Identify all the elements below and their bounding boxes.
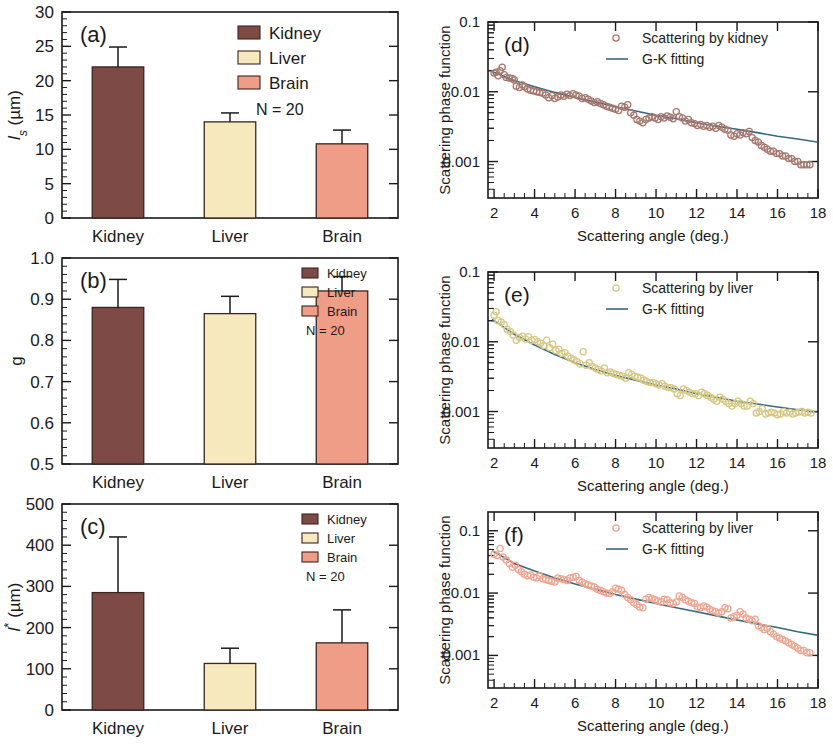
y-tick-label: 0.5 [30,455,54,474]
sample-size-annotation: N = 20 [306,323,345,338]
x-tick-label: 12 [688,694,705,711]
legend-label-fit: G-K fitting [642,301,704,317]
legend-swatch-brain [238,76,260,89]
y-axis-title-unit: (µm) [5,583,24,623]
x-tick-label: 18 [810,204,827,221]
legend-label-liver: Liver [269,49,306,68]
legend: Scattering by liverG-K fitting [606,520,754,557]
legend-label-kidney: Kidney [269,24,321,43]
y-tick-label: 0.01 [451,83,480,100]
data-point [544,337,550,343]
panel-label: (c) [80,514,106,539]
y-tick-label: 0 [45,701,54,720]
x-tick-label: 8 [611,204,619,221]
sample-size-annotation: N = 20 [256,101,304,118]
panel-d: 246810121416180.0010.010.1(d)Scattering … [436,13,826,244]
y-tick-label: 300 [26,577,54,596]
y-tick-label: 400 [26,536,54,555]
bar-kidney [92,593,144,710]
x-category-label: Brain [322,719,362,738]
plot-frame [488,272,818,448]
panel-f: 246810121416180.0010.010.1(f)Scattering … [436,512,826,734]
x-tick-label: 18 [810,454,827,471]
y-tick-label: 0.6 [30,414,54,433]
plot-frame [488,22,818,198]
panel-a: 051015202530KidneyLiverBrain(a)ls (µm)Ki… [5,3,398,246]
x-category-label: Kidney [92,227,144,246]
panel-b: 0.50.60.70.80.91.0KidneyLiverBrain(b)gKi… [7,249,398,492]
legend-label-brain: Brain [269,74,309,93]
y-axis-title: Scattering phase function [436,515,453,684]
bar-brain [316,643,368,710]
y-axis-title: ls (µm) [5,90,30,140]
panel-c: 0100200300400500KidneyLiverBrain(c)l* (µ… [1,495,399,738]
x-tick-label: 12 [688,454,705,471]
x-category-label: Brain [322,473,362,492]
legend-swatch-kidney [302,268,318,278]
bar-kidney [92,307,144,464]
x-tick-label: 2 [490,204,498,221]
x-category-label: Kidney [92,473,144,492]
y-axis-title: Scattering phase function [436,275,453,444]
y-tick-label: 0.01 [451,584,480,601]
legend-swatch-liver [302,533,318,543]
legend-label-kidney: Kidney [327,266,367,281]
legend: Scattering by kidneyG-K fitting [606,30,768,67]
x-category-label: Liver [212,227,249,246]
y-tick-label: 200 [26,619,54,638]
y-tick-label: 1.0 [30,249,54,268]
y-tick-label: 25 [35,37,54,56]
plot-frame [488,512,818,688]
legend-label-scatter: Scattering by liver [642,520,754,536]
y-tick-label: 0.1 [459,263,480,280]
x-category-label: Liver [212,719,249,738]
bar-liver [204,314,256,464]
x-tick-label: 10 [648,694,665,711]
panel-label: (f) [504,523,524,546]
y-tick-label: 0.1 [459,522,480,539]
y-axis-title: g [7,356,26,365]
y-tick-label: 500 [26,495,54,514]
y-tick-label: 10 [35,140,54,159]
legend-label-brain: Brain [327,550,357,565]
y-axis-title: Scattering phase function [436,25,453,194]
y-tick-label: 30 [35,3,54,22]
x-tick-label: 16 [769,694,786,711]
legend-swatch-liver [238,51,260,64]
x-tick-label: 4 [530,694,538,711]
legend-swatch-brain [302,552,318,562]
fit-line [492,319,818,412]
figure-canvas: 051015202530KidneyLiverBrain(a)ls (µm)Ki… [0,0,833,749]
figure-root: 051015202530KidneyLiverBrain(a)ls (µm)Ki… [0,0,833,749]
x-tick-label: 14 [729,204,746,221]
legend-label-brain: Brain [327,304,357,319]
x-tick-label: 14 [729,454,746,471]
y-tick-label: 20 [35,72,54,91]
legend-label-fit: G-K fitting [642,541,704,557]
bar-kidney [92,67,144,218]
x-tick-label: 10 [648,454,665,471]
x-tick-label: 6 [571,204,579,221]
y-tick-label: 5 [45,175,54,194]
x-tick-label: 8 [611,454,619,471]
data-point [580,349,586,355]
y-tick-label: 0.1 [459,13,480,30]
legend-label-fit: G-K fitting [642,51,704,67]
x-tick-label: 16 [769,204,786,221]
legend-marker-scatter [613,525,619,531]
scatter-series [491,545,813,656]
fit-line [492,551,818,636]
bar-brain [316,144,368,218]
x-tick-label: 10 [648,204,665,221]
sample-size-annotation: N = 20 [306,569,345,584]
y-tick-label: 15 [35,106,54,125]
legend-swatch-kidney [238,26,260,39]
y-tick-label: 100 [26,660,54,679]
fit-line [492,72,818,143]
legend: KidneyLiverBrain [302,512,367,565]
x-tick-label: 4 [530,204,538,221]
bar-liver [204,663,256,710]
scatter-series [491,64,813,168]
x-tick-label: 6 [571,694,579,711]
panel-label: (a) [80,22,107,47]
